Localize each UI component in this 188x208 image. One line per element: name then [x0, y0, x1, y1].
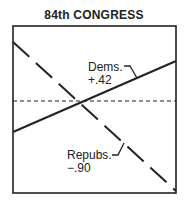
dems-value: +.42	[88, 73, 112, 87]
repubs-leader	[112, 143, 124, 155]
repubs-label: Repubs.	[67, 148, 112, 162]
dems-leader	[124, 66, 137, 78]
repubs-value: −.90	[67, 161, 91, 175]
chart-plot: Dems. +.42 Repubs. −.90	[0, 0, 188, 208]
dems-label: Dems.	[88, 60, 123, 74]
